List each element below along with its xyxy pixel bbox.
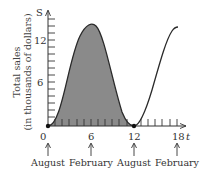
svg-text:Total sales: Total sales: [11, 46, 22, 97]
month-label-february-2: February: [155, 157, 200, 168]
y-tick-12: 12: [34, 35, 47, 46]
x-tick-6: 6: [88, 131, 94, 142]
point-t0: [46, 124, 50, 128]
x-tick-12: 12: [128, 131, 141, 142]
month-label-august-2: August: [116, 157, 151, 168]
y-axis-label: S: [36, 7, 43, 18]
x-tick-18: 18: [172, 131, 185, 142]
x-tick-0: 0: [40, 131, 46, 142]
month-label-august-1: August: [30, 157, 65, 168]
month-arrows: [46, 143, 180, 156]
point-t12: [132, 124, 136, 128]
y-title: Total sales (in thousands of dollars): [11, 13, 33, 130]
sales-chart: S 12 6 Total sales (in thousands of doll…: [0, 0, 205, 171]
svg-text:(in thousands of dollars): (in thousands of dollars): [22, 13, 33, 130]
y-tick-6: 6: [37, 77, 43, 88]
x-axis-label: t: [186, 131, 191, 142]
y-ticks: [48, 19, 55, 117]
month-label-february-1: February: [69, 157, 114, 168]
